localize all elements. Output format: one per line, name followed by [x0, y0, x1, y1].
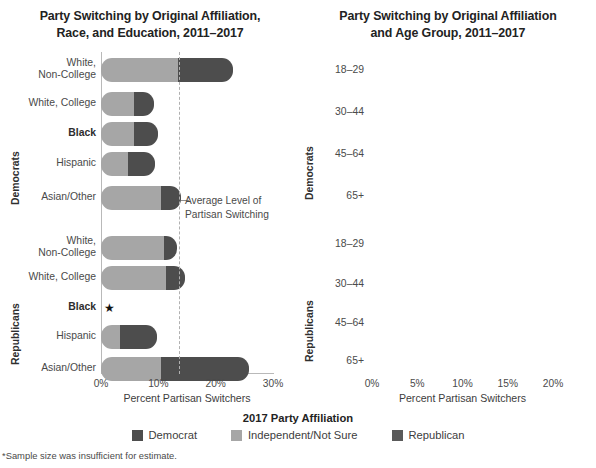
legend-label: Republican: [409, 429, 465, 441]
legend-label: Independent/Not Sure: [248, 429, 357, 441]
chart-title-right: Party Switching by Original Affiliation …: [300, 8, 596, 42]
bar-segment-switched: [166, 266, 185, 290]
category-label: White, College: [8, 271, 96, 284]
stacked-bar: [101, 152, 155, 176]
chart-title-right-line2: and Age Group, 2011–2017: [300, 25, 596, 42]
bar-segment-independent: [101, 186, 161, 210]
stacked-bar: [101, 266, 185, 290]
footnote: *Sample size was insufficient for estima…: [2, 450, 177, 461]
stacked-bar: [101, 58, 233, 82]
x-axis-tick-label: 15%: [498, 378, 518, 389]
bar-segment-switched: [164, 236, 177, 260]
group-axis-label: Democrats: [10, 151, 21, 205]
category-label: White, College: [8, 97, 96, 110]
x-axis-tick-label: 10%: [148, 378, 168, 389]
bar-row: [101, 92, 273, 116]
bar-segment-independent: [101, 122, 134, 146]
stacked-bar: [101, 92, 154, 116]
chart-page: Party Switching by Original Affiliation,…: [0, 0, 596, 468]
x-axis-tick-label: 0%: [94, 378, 109, 389]
category-label: Black: [8, 127, 96, 140]
bar-segment-switched: [120, 325, 157, 349]
group-axis-label: Republicans: [304, 300, 315, 362]
legend-title: 2017 Party Affiliation: [0, 412, 596, 424]
bar-row: [101, 122, 273, 146]
x-axis-tick-label: 20%: [205, 378, 225, 389]
bar-segment-switched: [128, 152, 156, 176]
stacked-bar: [101, 357, 249, 381]
average-switching-label: Average Level ofPartisan Switching: [185, 194, 269, 221]
category-label: 30–44: [302, 106, 364, 119]
x-axis-title: Percent Partisan Switchers: [123, 392, 250, 404]
legend-swatch-independent: [231, 430, 242, 441]
bar-segment-switched: [134, 92, 154, 116]
category-label: 30–44: [302, 278, 364, 291]
bar-segment-independent: [101, 58, 178, 82]
legend-item-republican[interactable]: Republican: [392, 429, 465, 441]
bar-segment-switched: [134, 122, 158, 146]
average-label-line2: Partisan Switching: [185, 208, 269, 222]
legend-swatch-democrat: [132, 430, 143, 441]
insufficient-sample-star-icon: ★: [104, 302, 115, 314]
bar-segment-independent: [101, 266, 166, 290]
plot-area-left: Average Level ofPartisan Switching: [101, 52, 273, 374]
x-axis-tick-label: 20%: [543, 378, 563, 389]
category-label: White, Non-College: [8, 235, 96, 260]
x-axis-title: Percent Partisan Switchers: [399, 392, 526, 404]
group-axis-label: Republicans: [10, 303, 21, 365]
average-label-line1: Average Level of: [185, 194, 269, 208]
x-axis-tick-label: 0%: [365, 378, 380, 389]
bar-row: [101, 325, 273, 349]
stacked-bar: [101, 325, 157, 349]
bar-row: [101, 58, 273, 82]
average-switching-line: [179, 52, 180, 374]
legend-swatch-republican: [392, 430, 403, 441]
category-label: Hispanic: [8, 157, 96, 170]
category-label: Hispanic: [8, 330, 96, 343]
legend-items: DemocratIndependent/Not SureRepublican: [0, 429, 596, 441]
category-label: Black: [8, 301, 96, 314]
stacked-bar: [101, 236, 177, 260]
stacked-bar: [101, 122, 158, 146]
bar-row: [101, 152, 273, 176]
chart-title-left: Party Switching by Original Affiliation,…: [0, 8, 300, 42]
category-label: 18–29: [302, 64, 364, 77]
chart-title-right-line1: Party Switching by Original Affiliation: [339, 9, 556, 23]
legend: 2017 Party Affiliation DemocratIndepende…: [0, 412, 596, 441]
category-label: Asian/Other: [8, 362, 96, 375]
legend-item-democrat[interactable]: Democrat: [132, 429, 198, 441]
x-axis-tick-label: 10%: [452, 378, 472, 389]
category-label: White, Non-College: [8, 57, 96, 82]
legend-item-independent[interactable]: Independent/Not Sure: [231, 429, 357, 441]
legend-label: Democrat: [149, 429, 198, 441]
x-axis-tick-label: 5%: [410, 378, 425, 389]
bar-segment-switched: [178, 58, 232, 82]
category-label: 18–29: [302, 238, 364, 251]
bar-segment-independent: [101, 325, 120, 349]
stacked-bar: [101, 186, 181, 210]
bar-segment-independent: [101, 152, 128, 176]
bar-row: [101, 236, 273, 260]
x-axis-tick-label: 30%: [263, 378, 283, 389]
bar-segment-switched: [161, 186, 181, 210]
chart-title-left-line1: Party Switching by Original Affiliation,: [40, 9, 261, 23]
bar-row: [101, 266, 273, 290]
group-axis-label: Democrats: [304, 146, 315, 200]
bar-segment-independent: [101, 236, 164, 260]
bar-segment-independent: [101, 92, 134, 116]
bar-row: [101, 357, 273, 381]
category-label: Asian/Other: [8, 191, 96, 204]
chart-title-left-line2: Race, and Education, 2011–2017: [0, 25, 300, 42]
